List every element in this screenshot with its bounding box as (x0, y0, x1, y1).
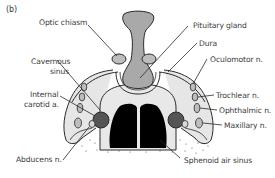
ophthalmic-left (77, 104, 83, 113)
panel-label: (b) (6, 5, 17, 14)
label-abducens: Abducens n. (16, 155, 62, 164)
oculomotor-right (190, 83, 196, 91)
label-dura: Dura (199, 39, 217, 48)
trochlear-left (79, 93, 85, 101)
label-oculomotor: Oculomotor n. (210, 55, 263, 64)
label-pituitary: Pituitary gland (193, 21, 247, 30)
label-optic-chiasm: Optic chiasm (39, 18, 87, 27)
internal-carotid-left (93, 112, 109, 128)
ophthalmic-right (194, 104, 200, 113)
label-cavernous-sinus-2: sinus (50, 67, 69, 76)
pituitary-gland (123, 11, 154, 88)
label-internal-carotid-2: carotid a. (24, 100, 59, 109)
internal-carotid-right (168, 112, 184, 128)
abducens-left (89, 121, 95, 128)
label-internal-carotid-1: Internal (30, 90, 58, 99)
maxillary-left (75, 118, 82, 128)
maxillary-right (196, 118, 203, 128)
oculomotor-left (81, 83, 87, 91)
label-cavernous-sinus-1: Cavernous (31, 57, 70, 66)
label-maxillary: Maxillary n. (224, 121, 267, 130)
trochlear-right (192, 93, 198, 101)
label-ophthalmic: Ophthalmic n. (219, 106, 271, 115)
label-sphenoid: Sphenoid air sinus (184, 156, 252, 165)
abducens-right (182, 121, 188, 128)
label-trochlear: Trochlear n. (216, 91, 259, 100)
optic-chiasm-left (112, 54, 126, 64)
